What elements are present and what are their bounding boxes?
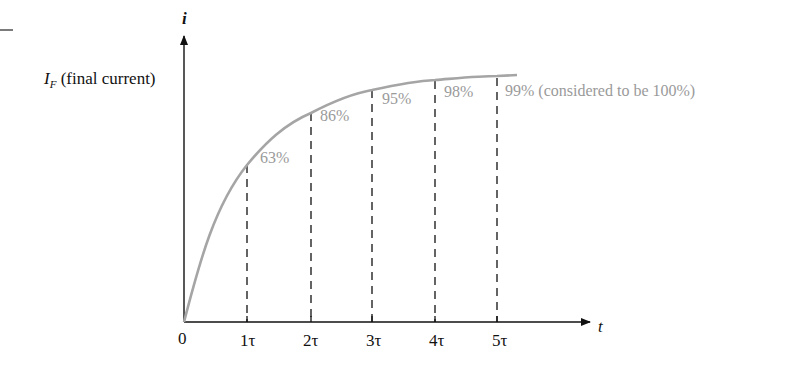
tick-label-2tau: 2τ: [303, 332, 318, 349]
final-current-text: (final current): [56, 69, 155, 88]
annotation-63: 63%: [260, 150, 289, 166]
x-axis-ticks: [247, 316, 497, 322]
tick-label-3tau: 3τ: [366, 332, 381, 349]
tau-dashed-lines: [247, 78, 497, 322]
tick-label-4tau: 4τ: [429, 332, 444, 349]
annotation-98: 98%: [444, 84, 473, 100]
tick-label-1tau: 1τ: [240, 332, 255, 349]
annotation-86: 86%: [320, 108, 349, 124]
y-axis-label: i: [182, 10, 187, 27]
annotation-99: 99% (considered to be 100%): [505, 83, 695, 99]
x-axis-label: t: [598, 318, 603, 335]
final-current-label: IF (final current): [44, 70, 156, 90]
annotation-95: 95%: [382, 91, 411, 107]
tick-label-5tau: 5τ: [492, 332, 507, 349]
charging-curve: [184, 75, 517, 322]
diagram-canvas: [0, 0, 785, 367]
origin-label: 0: [178, 330, 187, 347]
